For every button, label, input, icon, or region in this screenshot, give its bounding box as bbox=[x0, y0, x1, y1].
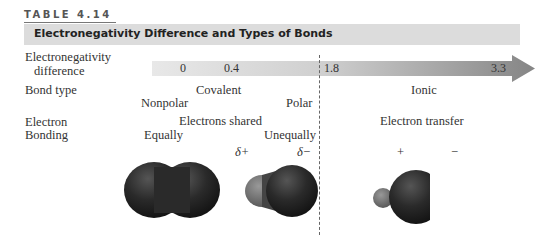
bond-type-covalent: Covalent bbox=[196, 83, 241, 98]
bond-type-ionic: Ionic bbox=[411, 83, 437, 98]
charge-minus: − bbox=[451, 145, 458, 160]
scale-tick-0: 0 bbox=[180, 61, 186, 76]
electrons-shared: Electrons shared bbox=[179, 114, 262, 129]
scale-tick-1-8: 1.8 bbox=[324, 61, 339, 76]
bonding-equally: Equally bbox=[144, 128, 183, 143]
table-number-underline bbox=[24, 22, 116, 23]
row-label-en-difference: Electronegativity difference bbox=[25, 50, 111, 78]
row-label-line1: Electronegativity bbox=[25, 50, 111, 64]
row-label-electron: Electron bbox=[25, 115, 67, 129]
row-label-bonding: Bonding bbox=[25, 128, 68, 142]
scale-tick-0-4: 0.4 bbox=[224, 61, 239, 76]
ionic-molecule-icon bbox=[373, 170, 430, 224]
electron-transfer: Electron transfer bbox=[380, 114, 464, 129]
molecule-illustrations bbox=[110, 155, 430, 225]
row-label-line2: difference bbox=[25, 64, 111, 78]
row-label-bond-type: Bond type bbox=[25, 83, 77, 97]
polar-molecule-icon bbox=[245, 165, 318, 217]
nonpolar-molecule-icon bbox=[124, 162, 220, 218]
table-number: TABLE 4.14 bbox=[24, 9, 112, 20]
table-title: Electronegativity Difference and Types o… bbox=[34, 27, 333, 40]
bond-type-nonpolar: Nonpolar bbox=[141, 96, 188, 111]
electronegativity-scale-arrow bbox=[152, 55, 535, 82]
bond-type-polar: Polar bbox=[286, 96, 312, 111]
scale-tick-3-3: 3.3 bbox=[491, 61, 506, 76]
bonding-unequally: Unequally bbox=[264, 128, 316, 143]
